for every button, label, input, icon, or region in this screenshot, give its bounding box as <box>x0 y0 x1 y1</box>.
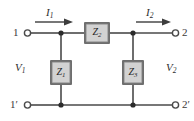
terminal-marker-2-prime[interactable] <box>172 102 178 108</box>
voltage-label-v1-subscript: 1 <box>22 66 26 75</box>
voltage-label-v1-base: V <box>15 61 22 73</box>
terminal-marker-2[interactable] <box>172 30 178 36</box>
impedance-label-z1-subscript: 1 <box>62 70 65 77</box>
voltage-label-v1: V1 <box>15 62 25 74</box>
voltage-label-v2: V2 <box>166 62 176 74</box>
terminal-label-2: 2 <box>182 27 188 38</box>
voltage-label-v2-base: V <box>166 61 173 73</box>
node-dot-top-left <box>58 30 63 35</box>
terminal-label-1-prime: 1′ <box>10 99 18 110</box>
terminal-label-2-prime: 2′ <box>182 99 190 110</box>
impedance-label-z2-subscript: 2 <box>98 31 101 38</box>
node-dot-bottom-left <box>58 102 63 107</box>
impedance-label-z3: Z3 <box>129 67 138 78</box>
current-arrow-i2 <box>136 19 171 26</box>
terminal-label-1: 1 <box>13 27 19 38</box>
node-dot-bottom-right <box>130 102 135 107</box>
voltage-label-v2-subscript: 2 <box>173 66 177 75</box>
current-arrow-i1 <box>35 19 73 26</box>
current-label-i1: I1 <box>46 7 53 19</box>
current-label-i2: I2 <box>146 7 153 19</box>
current-label-i1-subscript: 1 <box>50 11 54 20</box>
terminal-marker-1[interactable] <box>24 30 30 36</box>
node-dot-top-right <box>130 30 135 35</box>
terminal-marker-1-prime[interactable] <box>24 102 30 108</box>
impedance-label-z1: Z1 <box>57 67 66 78</box>
impedance-label-z3-subscript: 3 <box>134 70 137 77</box>
circuit-diagram: 1 2 1′ 2′ I1 I2 V1 V2 Z2 Z1 Z3 <box>0 0 194 121</box>
current-label-i2-subscript: 2 <box>150 11 154 20</box>
circuit-schematic-canvas <box>0 0 194 121</box>
impedance-label-z2: Z2 <box>93 27 102 38</box>
